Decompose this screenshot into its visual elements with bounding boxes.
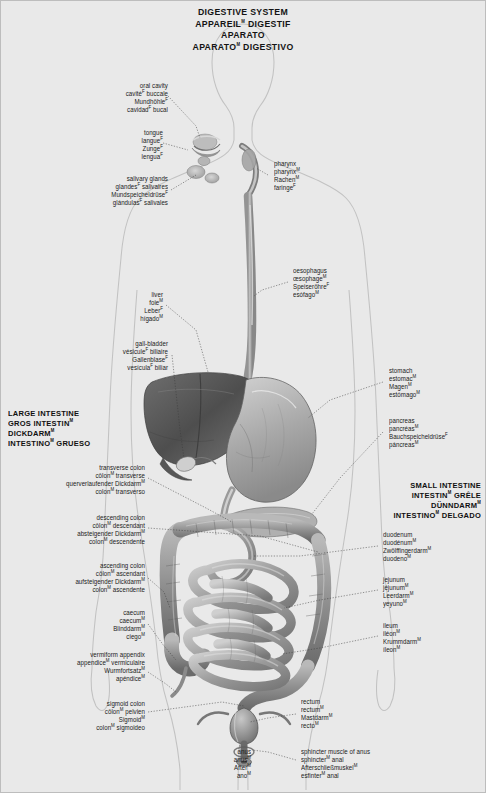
heading-small-intestine: SMALL INTESTINE INTESTINM GRÊLE DÜNNDARM… bbox=[348, 481, 481, 521]
page-title: DIGESTIVE SYSTEM APPAREILM DIGESTIF APAR… bbox=[0, 6, 486, 52]
label-sphincter-muscle-of-anus: sphincter muscle of anus sphincterM anal… bbox=[301, 748, 441, 780]
label-tongue: tongue langueF ZungeF lenguaF bbox=[78, 129, 163, 161]
label-anus: anus anusM AfterM anoM bbox=[196, 748, 251, 780]
label-salivary-glands: salivary glands glandesF salivaires Mund… bbox=[48, 175, 168, 207]
label-sigmoid-colon: sigmoid colon côlonM pelvien SigmoidM co… bbox=[30, 700, 145, 732]
duodenum-art bbox=[210, 526, 252, 583]
label-transverse-colon: transverse colon côlonM transverse querv… bbox=[10, 464, 145, 496]
label-oral-cavity: oral cavity cavitéF buccale MundhöhleF c… bbox=[60, 82, 168, 114]
label-liver: liver foieM LeberF hígadoM bbox=[95, 291, 163, 323]
label-caecum: caecum caecumM BlinddarmM ciegoM bbox=[60, 609, 145, 641]
digestive-system-poster: DIGESTIVE SYSTEM APPAREILM DIGESTIF APAR… bbox=[0, 0, 486, 793]
label-rectum: rectum rectumM MastdarmM rectoM bbox=[301, 698, 391, 730]
label-jejunum: jejunum jéjunumM LeerdarmM yeyunoM bbox=[383, 576, 483, 608]
label-pancreas: pancreas pancréasM BauchspeicheldrüseF p… bbox=[389, 417, 486, 449]
label-vermiform-appendix: vermiform appendix appendiceM vermiculai… bbox=[14, 651, 145, 683]
label-ileum: ileum iléonM KrummdarmM íleonM bbox=[383, 622, 483, 654]
label-pharynx: pharynx pharynxM RachenM faringeF bbox=[274, 160, 364, 192]
label-gall-bladder: gall-bladder vésiculeF biliaire Gallenbl… bbox=[70, 340, 168, 372]
label-ascending-colon: ascending colon côlonM ascendant aufstei… bbox=[14, 562, 145, 594]
label-descending-colon: descending colon côlonM descendant abste… bbox=[14, 514, 145, 546]
title-line-en: DIGESTIVE SYSTEM bbox=[17, 6, 469, 18]
label-oesophagus: oesophagus œsophageM SpeiseröhreF esófag… bbox=[293, 267, 388, 299]
title-line-es: APARATOM DIGESTIVO bbox=[17, 41, 469, 53]
label-stomach: stomach estomacM MagenM estómagoM bbox=[389, 367, 484, 399]
pharynx-art bbox=[242, 146, 256, 196]
heading-large-intestine: LARGE INTESTINE GROS INTESTINM DICKDARMM… bbox=[8, 409, 138, 449]
label-duodenum: duodenum duodénumM ZwölffingerdarmM duod… bbox=[383, 531, 483, 563]
oesophagus-art bbox=[248, 196, 252, 376]
title-line-fr: APPAREILM DIGESTIF bbox=[17, 18, 469, 30]
oral-cavity-art bbox=[192, 134, 220, 157]
title-line-de: APARATO bbox=[17, 29, 469, 41]
